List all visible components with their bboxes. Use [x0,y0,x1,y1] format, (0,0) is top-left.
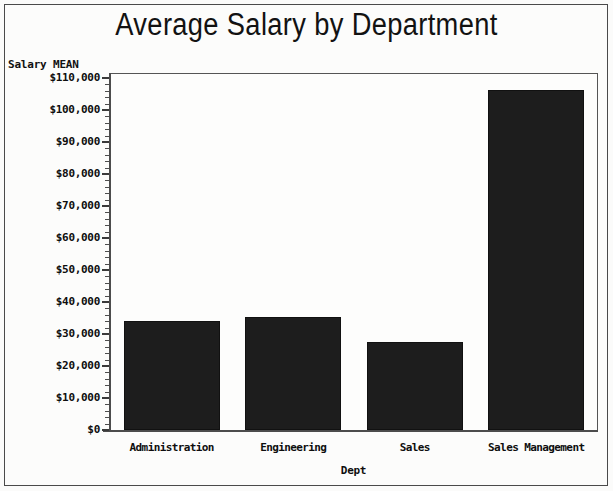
x-tick-label: Sales [354,441,476,454]
y-tick-label: $20,000 [4,359,100,372]
bar [124,321,220,430]
x-axis-line [103,430,598,432]
y-tick-minor [105,417,109,418]
x-tick-label: Engineering [233,441,355,454]
y-tick-minor [105,187,109,188]
y-tick-label: $30,000 [4,327,100,340]
y-tick-minor [105,283,109,284]
y-tick-minor [105,257,109,258]
y-tick-mark [102,237,109,239]
y-tick-minor [105,212,109,213]
y-tick-minor [105,116,109,117]
x-axis-label: Dept [109,464,598,477]
y-tick-minor [105,264,109,265]
y-tick-minor [105,340,109,341]
y-tick-minor [105,296,109,297]
chart-page: Average Salary by Department Salary MEAN… [0,0,613,491]
y-tick-minor [105,104,109,105]
y-tick-mark [102,365,109,367]
y-tick-minor [105,404,109,405]
y-tick-mark [102,205,109,207]
y-tick-minor [105,219,109,220]
page-title: Average Salary by Department [37,7,576,43]
y-tick-minor [105,161,109,162]
y-tick-mark [102,77,109,79]
y-tick-mark [102,173,109,175]
y-tick-minor [105,347,109,348]
y-tick-mark [102,333,109,335]
y-axis-ticks: $0$10,000$20,000$30,000$40,000$50,000$60… [0,0,100,491]
y-tick-minor [105,424,109,425]
y-tick-minor [105,315,109,316]
y-tick-minor [105,155,109,156]
y-tick-minor [105,289,109,290]
y-tick-minor [105,244,109,245]
y-tick-minor [105,91,109,92]
y-tick-minor [105,180,109,181]
y-tick-minor [105,84,109,85]
y-tick-mark [102,397,109,399]
y-tick-minor [105,148,109,149]
y-tick-minor [105,385,109,386]
x-tick-label: Administration [111,441,233,454]
y-tick-minor [105,321,109,322]
y-tick-minor [105,276,109,277]
bar [245,317,341,430]
y-tick-minor [105,193,109,194]
y-tick-mark [102,141,109,143]
y-tick-minor [105,251,109,252]
y-tick-mark [102,429,109,431]
y-tick-minor [105,360,109,361]
y-tick-minor [105,225,109,226]
y-tick-label: $60,000 [4,231,100,244]
bar [367,342,463,430]
y-tick-minor [105,411,109,412]
y-tick-minor [105,308,109,309]
y-tick-label: $80,000 [4,167,100,180]
y-tick-minor [105,168,109,169]
y-tick-minor [105,353,109,354]
y-tick-minor [105,379,109,380]
y-tick-label: $0 [4,423,100,436]
y-tick-label: $50,000 [4,263,100,276]
y-tick-label: $40,000 [4,295,100,308]
y-tick-minor [105,372,109,373]
y-tick-mark [102,109,109,111]
y-tick-label: $10,000 [4,391,100,404]
y-tick-minor [105,328,109,329]
y-tick-minor [105,392,109,393]
y-tick-minor [105,129,109,130]
y-tick-label: $100,000 [4,103,100,116]
y-tick-mark [102,301,109,303]
y-tick-label: $90,000 [4,135,100,148]
y-tick-minor [105,97,109,98]
bar [488,90,584,430]
x-tick-label: Sales Management [476,441,598,454]
y-tick-label: $110,000 [4,71,100,84]
y-tick-label: $70,000 [4,199,100,212]
y-tick-minor [105,232,109,233]
y-tick-minor [105,123,109,124]
y-tick-minor [105,136,109,137]
y-tick-minor [105,200,109,201]
y-tick-mark [102,269,109,271]
plot-area [110,74,597,430]
